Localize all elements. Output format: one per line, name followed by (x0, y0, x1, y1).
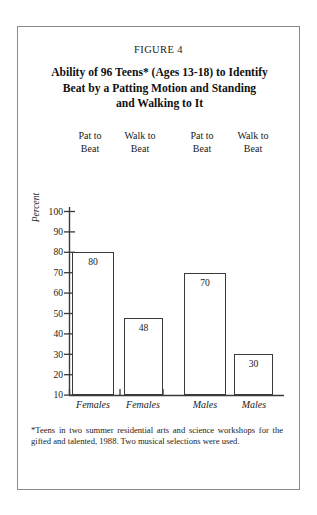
bar-males-walk-to-beat: 30 (234, 354, 273, 395)
bar-value-2: 70 (185, 277, 225, 288)
x-tick-label-3: Males (223, 399, 285, 410)
figure-border: FIGURE 4 Ability of 96 Teens* (Ages 13-1… (17, 26, 300, 490)
bar-chart-plot: Pat to Beat Walk to Beat Pat to Beat Wal… (18, 27, 301, 491)
bar-value-3: 30 (235, 358, 272, 369)
x-tick-label-1: Females (112, 399, 174, 410)
bar-males-pat-to-beat: 70 (184, 273, 226, 396)
bar-value-1: 48 (125, 322, 162, 333)
figure-footnote: *Teens in two summer residential arts an… (31, 425, 283, 448)
bar-females-walk-to-beat: 48 (124, 318, 163, 396)
chart-axes (18, 27, 301, 491)
bar-value-0: 80 (73, 256, 113, 267)
bar-females-pat-to-beat: 80 (72, 252, 114, 395)
